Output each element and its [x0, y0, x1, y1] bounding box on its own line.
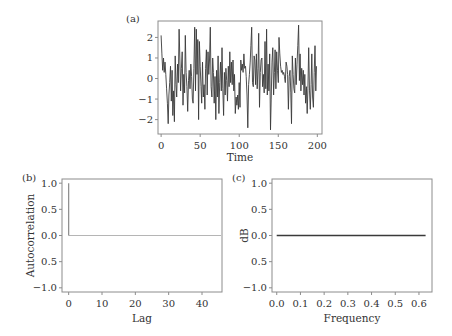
y-tick-label: 0.0	[41, 230, 57, 241]
x-tick-label: 0.3	[340, 298, 356, 309]
x-tick-label: 150	[269, 140, 288, 151]
x-tick-label: 20	[129, 298, 142, 309]
x-tick-label: 30	[162, 298, 175, 309]
x-tick-label: 40	[196, 298, 209, 309]
y-tick-label: −1	[138, 94, 153, 105]
x-tick-label: 0.5	[387, 298, 403, 309]
y-tick-label: 0.5	[41, 256, 57, 267]
panel-b-autocorrelation: 0102030401.00.50.00.5−1.0LagAutocorrelat…	[22, 172, 222, 324]
y-tick-label: 1.0	[251, 178, 267, 189]
panel-label: (a)	[126, 13, 140, 24]
x-tick-label: 0.4	[364, 298, 380, 309]
y-tick-label: 0.5	[251, 204, 267, 215]
y-tick-label: −1.0	[33, 282, 57, 293]
y-tick-label: 0.5	[41, 204, 57, 215]
y-tick-label: 0	[147, 73, 153, 84]
x-tick-label: 10	[96, 298, 109, 309]
x-tick-label: 50	[194, 140, 207, 151]
x-tick-label: 0	[158, 140, 164, 151]
y-tick-label: 0.0	[251, 230, 267, 241]
panel-label: (c)	[232, 172, 246, 183]
x-tick-label: 0.1	[292, 298, 308, 309]
y-tick-label: 2	[147, 32, 153, 43]
y-tick-label: −1.0	[243, 282, 267, 293]
time-series-line	[161, 25, 316, 130]
y-tick-label: 0.5	[251, 256, 267, 267]
x-tick-label: 0.0	[269, 298, 285, 309]
x-tick-label: 0.6	[411, 298, 427, 309]
x-tick-label: 0	[65, 298, 71, 309]
y-axis-label: Autocorrelation	[24, 193, 36, 278]
y-tick-label: 1	[147, 52, 153, 63]
x-tick-label: 200	[308, 140, 327, 151]
x-axis-label: Frequency	[324, 312, 381, 324]
panel-label: (b)	[22, 172, 36, 183]
x-tick-label: 100	[230, 140, 249, 151]
y-axis-label: dB	[238, 228, 250, 243]
x-axis-label: Lag	[132, 312, 152, 324]
panel-c-spectrum: 0.00.10.20.30.40.50.61.00.50.00.5−1.0Fre…	[232, 172, 432, 324]
x-tick-label: 0.2	[316, 298, 332, 309]
panel-a-time-series: 050100150200−2−1012Time(a)	[126, 13, 327, 163]
y-tick-label: −2	[138, 114, 153, 125]
y-tick-label: 1.0	[41, 178, 57, 189]
figure: 050100150200−2−1012Time(a) 0102030401.00…	[0, 0, 452, 336]
x-axis-label: Time	[227, 151, 254, 163]
